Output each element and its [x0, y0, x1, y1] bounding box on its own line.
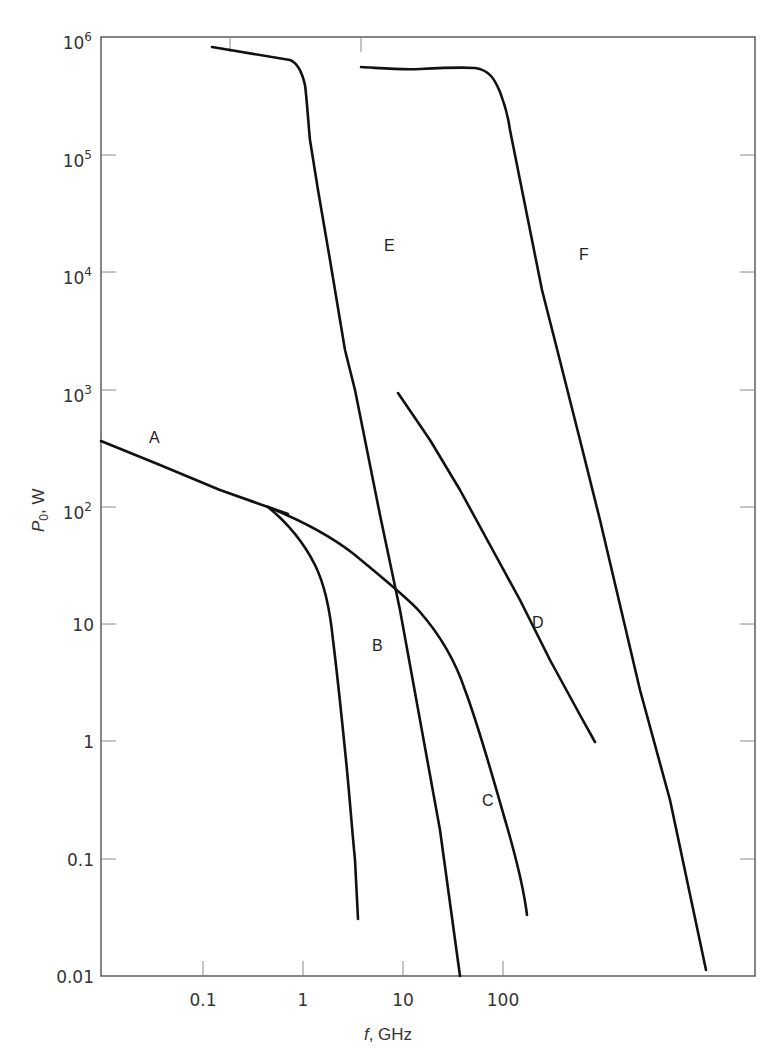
- plot-frame: [101, 37, 755, 976]
- curve-a: [101, 441, 288, 514]
- x-label-10: 10: [392, 990, 414, 1010]
- y-axis-title: P0, W: [29, 488, 51, 532]
- x-label-0-1: 0.1: [189, 990, 216, 1010]
- label-f: F: [579, 246, 589, 263]
- y-label-1e3: 103: [63, 383, 92, 406]
- curve-e: [212, 47, 460, 976]
- curve-labels: A B C D E F: [149, 237, 589, 809]
- x-ticks-top: [230, 37, 361, 52]
- y-label-1e2: 102: [63, 500, 92, 523]
- y-label-0-1: 0.1: [67, 850, 94, 870]
- y-label-1: 1: [83, 732, 94, 752]
- curve-c: [268, 507, 527, 915]
- y-label-1e6: 106: [63, 30, 92, 53]
- label-a: A: [149, 429, 160, 446]
- curve-f: [361, 67, 706, 970]
- curve-b: [268, 507, 358, 919]
- y-label-1e5: 105: [63, 148, 92, 171]
- label-e: E: [384, 237, 395, 254]
- label-b: B: [372, 637, 383, 654]
- power-frequency-chart: 106 105 104 103 102 10 1 0.1 0.01 0.1 1 …: [0, 0, 783, 1063]
- x-axis-title: f, GHz: [364, 1025, 412, 1044]
- curve-d: [398, 393, 595, 742]
- y-tick-labels: 106 105 104 103 102 10 1 0.1 0.01: [56, 30, 94, 987]
- y-label-0-01: 0.01: [56, 967, 94, 987]
- y-label-10: 10: [72, 615, 94, 635]
- y-label-1e4: 104: [63, 265, 92, 288]
- label-d: D: [532, 614, 544, 631]
- y-ticks-right: [740, 155, 755, 859]
- x-label-100: 100: [487, 990, 519, 1010]
- x-label-1: 1: [298, 990, 309, 1010]
- y-ticks-left: [101, 155, 116, 859]
- label-c: C: [482, 792, 494, 809]
- x-tick-labels: 0.1 1 10 100: [189, 990, 519, 1010]
